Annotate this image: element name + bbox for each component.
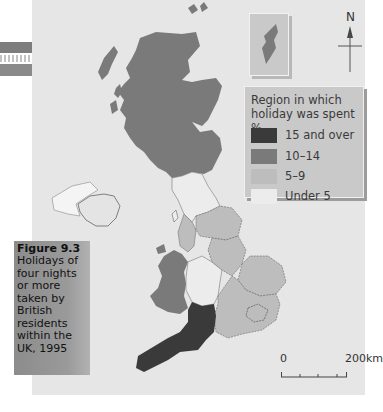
page-edge-texture [0, 55, 32, 62]
region-scotland [118, 32, 222, 178]
legend-swatch [251, 189, 277, 204]
figure-caption-box: Figure 9.3 Holidays of four nights or mo… [14, 241, 90, 375]
legend-item-under-5: Under 5 [251, 188, 331, 204]
legend-label: Under 5 [285, 189, 331, 203]
legend-item-15-and-over: 15 and over [251, 127, 354, 143]
legend-label: 15 and over [285, 128, 354, 142]
legend-label: 5–9 [285, 169, 305, 183]
figure-caption: Holidays of four nights or more taken by… [17, 255, 87, 355]
page-edge-bar-lower [0, 64, 32, 76]
legend-swatch [251, 128, 277, 143]
map-legend: Region in which holiday was spent % 15 a… [244, 86, 364, 198]
scale-end-label: 200km [345, 352, 383, 365]
shetland-inset [249, 13, 289, 76]
legend-swatch [251, 149, 277, 164]
scale-bar [281, 367, 351, 381]
page-edge-bar [0, 42, 32, 53]
legend-label: 10–14 [285, 149, 320, 163]
region-wales [150, 250, 188, 314]
legend-swatch [251, 169, 277, 184]
scale-start-label: 0 [280, 352, 287, 365]
region-western-isles [98, 46, 118, 80]
legend-item-5-9: 5–9 [251, 168, 305, 184]
north-arrow: N [338, 10, 368, 74]
shetland-islands-shape [250, 14, 288, 75]
north-label: N [346, 10, 355, 24]
legend-item-10-14: 10–14 [251, 148, 320, 164]
